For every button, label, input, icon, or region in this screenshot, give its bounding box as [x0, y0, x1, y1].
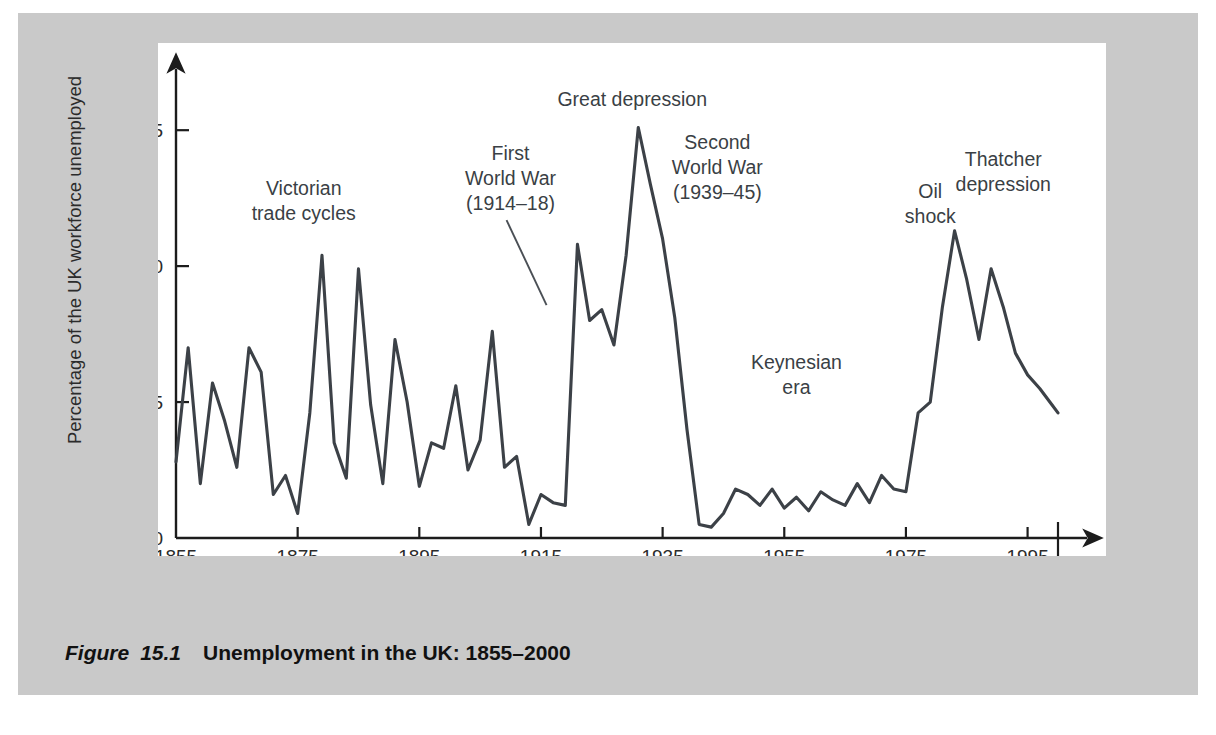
annotation-second-world-war: SecondWorld War(1939–45): [672, 131, 764, 203]
annotation-thatcher-depression: Thatcherdepression: [956, 148, 1051, 195]
annotation-line: trade cycles: [252, 202, 356, 224]
annotation-leader-line: [507, 220, 547, 305]
annotation-line: (1914–18): [466, 192, 555, 214]
figure-panel: Percentage of the UK workforce unemploye…: [18, 13, 1198, 695]
x-tick-label: 1995: [1006, 546, 1048, 556]
x-tick-label: 1855: [158, 546, 197, 556]
annotation-line: era: [782, 376, 810, 398]
annotation-line: World War: [465, 167, 557, 189]
annotation-line: shock: [905, 205, 956, 227]
x-tick-label: 1935: [641, 546, 683, 556]
caption-title: Unemployment in the UK: 1855–2000: [203, 641, 571, 664]
x-tick-label: 1875: [277, 546, 319, 556]
annotation-line: Second: [684, 131, 750, 153]
x-tick-label: 1895: [398, 546, 440, 556]
unemployment-line-chart: 0510151855187518951915193519551975199520…: [158, 43, 1106, 556]
y-tick-label: 15: [158, 120, 163, 141]
y-axis-title: Percentage of the UK workforce unemploye…: [64, 45, 86, 475]
annotation-line: Victorian: [266, 177, 342, 199]
y-tick-label: 10: [158, 256, 163, 277]
caption-number: 15.1: [140, 641, 181, 664]
x-tick-label: 1955: [763, 546, 805, 556]
annotation-line: (1939–45): [673, 181, 762, 203]
y-tick-label: 5: [158, 392, 163, 413]
x-tick-label: 1915: [520, 546, 562, 556]
annotation-line: Keynesian: [751, 351, 842, 373]
annotation-line: World War: [672, 156, 764, 178]
plot-area: 0510151855187518951915193519551975199520…: [158, 43, 1106, 556]
annotation-oil-shock: Oilshock: [905, 180, 956, 227]
annotation-great-depression: Great depression: [557, 88, 707, 110]
annotation-line: depression: [956, 173, 1051, 195]
figure-caption: Figure15.1Unemployment in the UK: 1855–2…: [65, 641, 571, 665]
annotation-line: Thatcher: [965, 148, 1042, 170]
annotation-line: First: [492, 142, 530, 164]
annotation-victorian: Victoriantrade cycles: [252, 177, 356, 224]
annotation-line: Oil: [918, 180, 942, 202]
annotation-first-world-war: FirstWorld War(1914–18): [465, 142, 557, 305]
annotation-keynesian-era: Keynesianera: [751, 351, 842, 398]
x-tick-label: 1975: [885, 546, 927, 556]
annotation-line: Great depression: [557, 88, 707, 110]
caption-label: Figure: [65, 641, 129, 664]
